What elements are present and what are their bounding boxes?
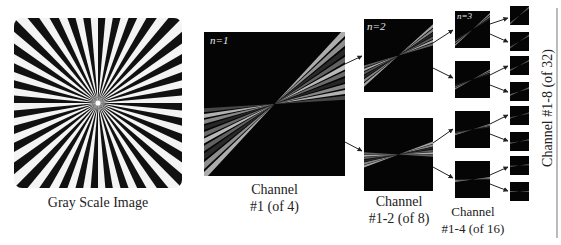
n1-label: n=1 — [210, 34, 228, 46]
channel-n4-panel-3 — [510, 56, 529, 75]
n3-label: n=3 — [457, 11, 472, 21]
n2-label: n=2 — [367, 20, 385, 32]
channel-n3-panel-3 — [455, 111, 490, 148]
caption-line1: Channel — [204, 181, 345, 198]
gray-scale-image — [14, 18, 182, 188]
channel-n3-panel-4 — [455, 161, 490, 198]
channel-n4-panel-6 — [510, 132, 529, 151]
channel-n4-panel-8 — [510, 182, 529, 201]
channel-n3-caption: Channel #1-4 (of 16) — [432, 203, 514, 237]
channel-n4-panel-2 — [510, 32, 529, 51]
caption-line1: Channel — [432, 203, 514, 220]
channel-n1-panel — [204, 32, 345, 176]
channel-n4-panel-1 — [510, 6, 529, 25]
gray-scale-image-label: Gray Scale Image — [14, 194, 182, 211]
channel-n2-panel-2 — [364, 118, 433, 191]
channel-n4-caption: Channel #1-8 (of 32) — [540, 38, 556, 178]
channel-n1-caption: Channel #1 (of 4) — [204, 181, 345, 215]
caption-line2: #1 (of 4) — [204, 198, 345, 215]
channel-n4-panel-7 — [510, 156, 529, 175]
divider-line — [556, 8, 558, 238]
channel-n3-panel-2 — [455, 61, 490, 98]
channel-n4-panel-5 — [510, 106, 529, 125]
caption-line2: #1-4 (of 16) — [432, 220, 514, 237]
channel-n4-panel-4 — [510, 82, 529, 101]
